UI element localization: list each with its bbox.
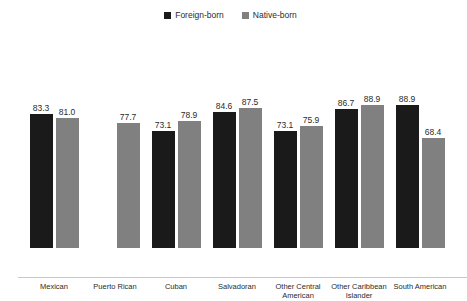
bar-rect — [361, 105, 384, 248]
bar-foreign-born: 84.6 — [213, 1, 236, 248]
bar-rect — [396, 105, 419, 248]
bar-native-born: 75.9 — [300, 1, 323, 248]
bar-rect — [56, 118, 79, 248]
bar-rect — [300, 126, 323, 248]
bar-group: 86.788.9 — [333, 30, 385, 248]
x-axis-label: South American — [386, 282, 454, 291]
bar-rect — [274, 131, 297, 248]
x-axis-label: Salvadoran — [203, 282, 271, 291]
bar-native-born: 87.5 — [239, 1, 262, 248]
x-axis-label: Mexican — [20, 282, 88, 291]
bar-group: 73.178.9 — [150, 30, 202, 248]
bar-group: 83.381.0 — [28, 30, 80, 248]
bar-rect — [30, 114, 53, 248]
bar-value-label: 77.7 — [108, 113, 148, 122]
bar-foreign-born: 73.1 — [152, 1, 175, 248]
bar-native-born: 81.0 — [56, 1, 79, 248]
bar-rect — [178, 121, 201, 248]
bar-group: 84.687.5 — [211, 30, 263, 248]
bar-native-born: 88.9 — [361, 1, 384, 248]
bar-group: 73.175.9 — [272, 30, 324, 248]
bar-value-label: 81.0 — [47, 108, 87, 117]
bar-rect — [117, 123, 140, 248]
x-axis-label: Other CentralAmerican — [264, 282, 332, 301]
bar-value-label: 88.9 — [352, 95, 392, 104]
x-axis-label: Puerto Rican — [81, 282, 149, 291]
bar-value-label: 87.5 — [230, 98, 270, 107]
bar-foreign-born: 86.7 — [335, 1, 358, 248]
bar-rect — [152, 131, 175, 248]
bar-rect — [335, 109, 358, 248]
x-axis-baseline — [18, 277, 467, 278]
bar-empty — [91, 1, 114, 248]
bar-group: 88.968.4 — [394, 30, 446, 248]
bar-value-label: 78.9 — [169, 111, 209, 120]
bar-rect — [422, 138, 445, 248]
bar-foreign-born: 73.1 — [274, 1, 297, 248]
x-axis-label: Other CaribbeanIslander — [325, 282, 393, 301]
bar-value-label: 75.9 — [291, 116, 331, 125]
bar-native-born: 77.7 — [117, 1, 140, 248]
x-axis-label: Cuban — [142, 282, 210, 291]
bar-native-born: 68.4 — [422, 1, 445, 248]
bar-value-label: 68.4 — [413, 128, 453, 137]
bar-rect — [239, 108, 262, 248]
bar-native-born: 78.9 — [178, 1, 201, 248]
plot-area: 83.381.077.773.178.984.687.573.175.986.7… — [18, 30, 443, 248]
bar-rect — [213, 112, 236, 248]
bar-group: 77.7 — [89, 30, 141, 248]
bar-foreign-born: 83.3 — [30, 1, 53, 248]
bar-foreign-born: 88.9 — [396, 1, 419, 248]
